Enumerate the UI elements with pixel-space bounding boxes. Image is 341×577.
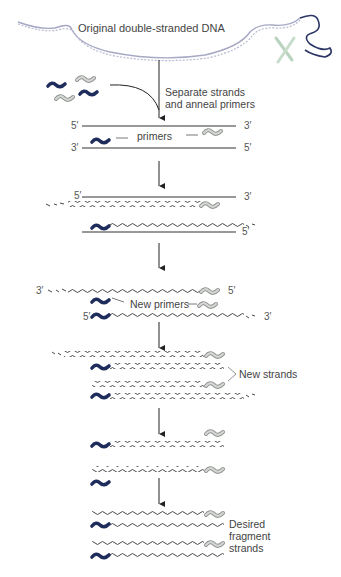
five-prime-end: 5′ (71, 120, 78, 131)
step1-label-line2: and anneal primers (165, 98, 255, 110)
title-label: Original double-stranded DNA (78, 22, 225, 34)
anneal-arrow (110, 85, 159, 110)
primers-label: primers (137, 130, 172, 142)
five-prime-end: 5′ (244, 142, 251, 153)
desired-label-line3: strands (229, 542, 263, 554)
five-prime-end: 5′ (74, 190, 81, 201)
three-prime-end: 3′ (264, 311, 271, 322)
five-prime-end: 5′ (83, 311, 90, 322)
three-prime-end: 3′ (36, 285, 43, 296)
three-prime-end: 3′ (244, 120, 251, 131)
five-prime-end: 5′ (228, 285, 235, 296)
new-strands-bracket (228, 367, 236, 381)
step1-label-line1: Separate strands (165, 86, 245, 98)
chromosome-icon (276, 38, 294, 62)
free-primers (48, 77, 97, 100)
five-prime-end: 5′ (242, 226, 249, 237)
three-prime-end: 3′ (244, 191, 251, 202)
desired-label-line2: fragment (229, 530, 270, 542)
three-prime-end: 3′ (71, 142, 78, 153)
desired-label-line1: Desired (229, 518, 265, 530)
new-strands-label: New strands (239, 368, 297, 380)
new-primers-label: New primers (130, 298, 189, 310)
